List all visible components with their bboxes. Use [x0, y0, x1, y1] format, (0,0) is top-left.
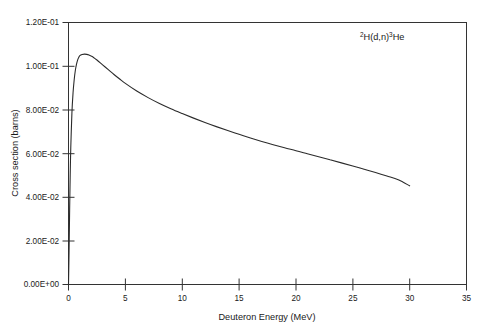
x-tick-label-7: 35 — [462, 294, 472, 303]
x-tick-label-3: 15 — [235, 294, 245, 303]
annotation-tail: He — [393, 32, 405, 42]
x-tick-label-0: 0 — [66, 294, 71, 303]
y-tick-label-5: 1.00E-01 — [26, 62, 60, 71]
x-tick-label-4: 20 — [291, 294, 301, 303]
x-tick-label-6: 30 — [405, 294, 415, 303]
plot-frame — [69, 23, 467, 285]
x-tick-label-5: 25 — [348, 294, 358, 303]
x-tick-label-1: 5 — [123, 294, 128, 303]
y-tick-label-2: 4.00E-02 — [26, 193, 60, 202]
cross-section-curve — [69, 54, 410, 284]
y-tick-label-3: 6.00E-02 — [26, 150, 60, 159]
y-tick-label-6: 1.20E-01 — [26, 18, 60, 27]
x-axis-title: Deuteron Energy (MeV) — [218, 312, 315, 322]
cross-section-plot: 0.00E+00 2.00E-02 4.00E-02 6.00E-02 8.00… — [0, 0, 502, 335]
y-tick-label-0: 0.00E+00 — [24, 280, 60, 289]
y-tick-label-1: 2.00E-02 — [26, 237, 60, 246]
x-axis-tick-labels: 0 5 10 15 20 25 30 35 — [66, 294, 471, 303]
x-tick-label-2: 10 — [178, 294, 188, 303]
chart-figure: 0.00E+00 2.00E-02 4.00E-02 6.00E-02 8.00… — [0, 0, 502, 335]
y-axis-title: Cross section (barns) — [10, 109, 20, 196]
annotation-mid: H(d,n) — [364, 32, 390, 42]
y-axis-tick-labels: 0.00E+00 2.00E-02 4.00E-02 6.00E-02 8.00… — [24, 18, 60, 289]
y-tick-label-4: 8.00E-02 — [26, 106, 60, 115]
reaction-annotation: 2H(d,n)3He — [360, 31, 404, 43]
